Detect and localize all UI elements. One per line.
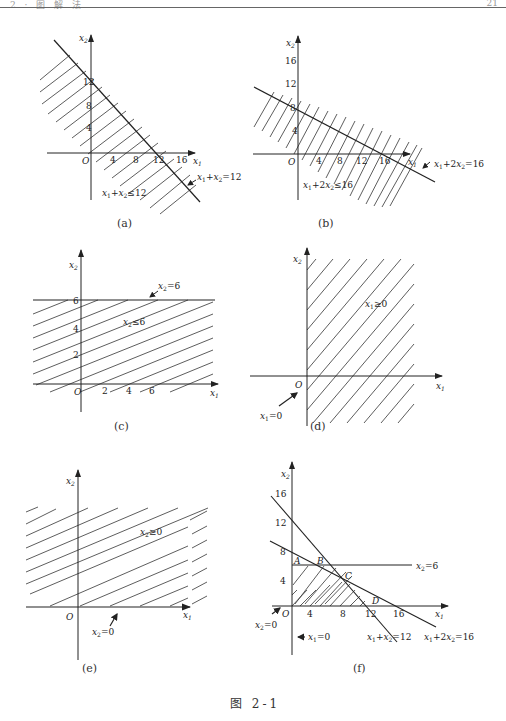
svg-text:x1+2x2=16: x1+2x2=16 bbox=[424, 632, 474, 643]
svg-text:A: A bbox=[293, 556, 301, 566]
caption-c: (c) bbox=[114, 420, 129, 433]
caption-d: (d) bbox=[310, 420, 326, 433]
svg-text:O: O bbox=[282, 609, 290, 619]
caption-f: (f) bbox=[353, 662, 366, 675]
svg-text:x2=0: x2=0 bbox=[255, 620, 277, 631]
svg-text:16: 16 bbox=[275, 489, 287, 499]
svg-text:x1=0: x1=0 bbox=[308, 632, 330, 643]
svg-text:8: 8 bbox=[280, 547, 286, 557]
svg-text:12: 12 bbox=[365, 609, 376, 619]
figure-title: 图 2-1 bbox=[230, 694, 280, 711]
svg-text:4: 4 bbox=[280, 576, 286, 586]
caption-a: (a) bbox=[117, 217, 132, 230]
svg-text:4: 4 bbox=[307, 609, 313, 619]
svg-text:C: C bbox=[345, 571, 352, 581]
svg-text:B: B bbox=[316, 556, 324, 566]
svg-text:D: D bbox=[371, 596, 379, 606]
svg-text:8: 8 bbox=[340, 609, 346, 619]
svg-text:12: 12 bbox=[275, 518, 286, 528]
svg-text:x2: x2 bbox=[281, 469, 290, 480]
caption-e: (e) bbox=[82, 662, 97, 675]
svg-text:x2=6: x2=6 bbox=[416, 561, 438, 572]
caption-b: (b) bbox=[318, 217, 334, 230]
svg-text:x1: x1 bbox=[435, 609, 444, 620]
panel-f: x2 x1 O 481216 161284 A B C D x2=6 x1=0 … bbox=[0, 0, 506, 721]
svg-text:16: 16 bbox=[393, 609, 405, 619]
